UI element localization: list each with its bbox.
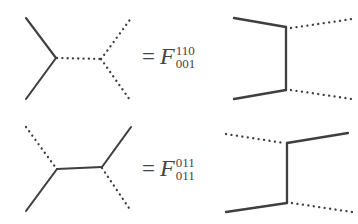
row1-left-lower-left-leg xyxy=(26,58,56,99)
equals-sign: = xyxy=(142,45,160,68)
row2-right-lower-right-leg xyxy=(292,203,352,212)
row1-left-upper-left-leg xyxy=(26,18,56,58)
row1-right-upper-right-leg xyxy=(291,19,352,28)
row1-left-diagram-dotted xyxy=(57,17,132,100)
row2-right-upper-right-leg xyxy=(287,133,348,143)
row1-right-diagram-dotted xyxy=(291,19,352,99)
f-superscript: 011 xyxy=(176,156,195,169)
row2-right-lower-left-leg xyxy=(226,203,287,212)
row2-left-upper-left-leg xyxy=(26,127,56,168)
row2-left-lower-left-leg xyxy=(26,169,57,211)
f-superscript: 110 xyxy=(176,44,196,57)
row2-right-diagram-dotted xyxy=(226,134,352,212)
row1-right-diagram xyxy=(234,18,286,99)
f-subscript: 001 xyxy=(176,57,196,70)
equation-row-1: = F 110 001 xyxy=(0,0,358,112)
row-2-equation: = F 011 011 xyxy=(142,142,222,194)
row1-right-upper-left-leg xyxy=(234,18,286,27)
row1-right-lower-left-leg xyxy=(234,90,286,99)
row2-right-upper-left-leg xyxy=(226,134,284,143)
row1-left-diagram xyxy=(26,18,56,99)
figure-canvas: = F 110 001 xyxy=(0,0,358,224)
row2-left-upper-right-leg xyxy=(102,127,131,167)
row-1-equation: = F 110 001 xyxy=(142,30,222,82)
f-subscript: 011 xyxy=(176,169,195,182)
f-symbol: F xyxy=(160,44,176,68)
f-indices: 110 001 xyxy=(176,44,196,71)
row2-right-diagram xyxy=(226,133,348,212)
row1-right-lower-right-leg xyxy=(291,90,352,99)
row2-left-internal-edge xyxy=(57,167,102,169)
equals-sign: = xyxy=(142,157,160,180)
f-symbol: F xyxy=(160,156,176,180)
row1-left-upper-right-leg xyxy=(101,17,132,59)
row2-left-diagram xyxy=(26,127,131,211)
row1-left-lower-right-leg xyxy=(101,59,130,100)
row1-left-internal-edge xyxy=(57,58,101,59)
equation-row-2: = F 011 011 xyxy=(0,112,358,224)
f-indices: 011 011 xyxy=(176,156,195,183)
row2-left-lower-right-leg xyxy=(102,168,131,211)
